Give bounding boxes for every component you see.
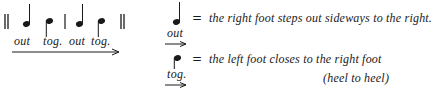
double-barline-icon <box>4 14 10 30</box>
legend-description: the left foot closes to the right foot <box>209 52 382 67</box>
step-label: out <box>14 34 30 49</box>
quarter-note-icon <box>172 2 182 26</box>
double-barline-icon <box>120 14 126 30</box>
legend-label: out <box>167 26 183 41</box>
step-label: tog. <box>91 34 111 49</box>
legend-description-continued: (heel to heel) <box>323 71 389 86</box>
quarter-note-icon <box>22 4 32 28</box>
legend-description: the right foot steps out sideways to the… <box>209 11 432 26</box>
right-arrow-icon <box>12 48 122 56</box>
equals-sign: = <box>192 11 202 25</box>
step-label: out <box>69 34 85 49</box>
quarter-note-icon <box>75 4 85 28</box>
equals-sign: = <box>192 52 202 66</box>
legend-label: tog. <box>167 67 187 82</box>
right-arrow-icon <box>165 40 189 48</box>
step-label: tog. <box>43 34 63 49</box>
barline-icon <box>64 14 67 30</box>
right-arrow-icon <box>165 81 189 89</box>
